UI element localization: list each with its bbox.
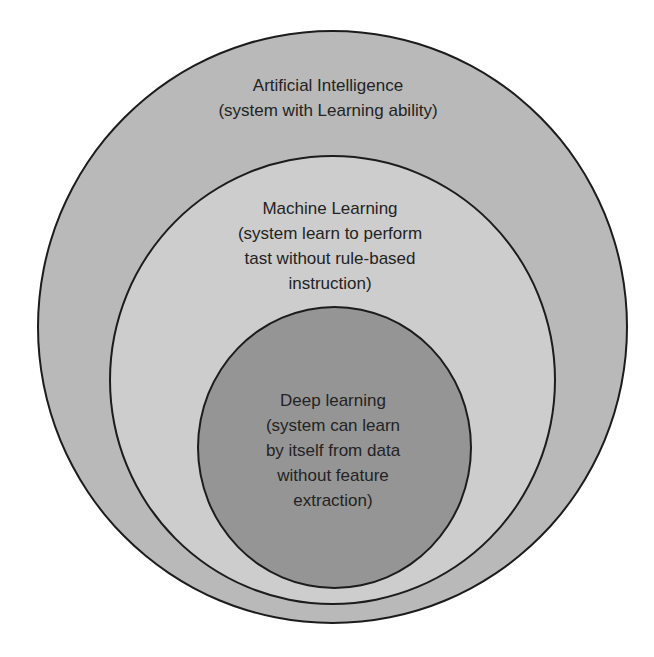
label-deep-learning: Deep learning (system can learn by itsel… <box>266 388 400 513</box>
dl-description-line: by itself from data <box>266 438 400 463</box>
ai-title: Artificial Intelligence <box>218 73 437 98</box>
ml-title: Machine Learning <box>238 196 422 221</box>
ml-description-line: tast without rule-based <box>238 246 422 271</box>
ml-description-line: instruction) <box>238 271 422 296</box>
nested-circle-diagram: Artificial Intelligence (system with Lea… <box>0 0 654 657</box>
dl-description-line: (system can learn <box>266 413 400 438</box>
dl-title: Deep learning <box>266 388 400 413</box>
ml-description-line: (system learn to perform <box>238 221 422 246</box>
ai-description-line: (system with Learning ability) <box>218 98 437 123</box>
label-artificial-intelligence: Artificial Intelligence (system with Lea… <box>218 73 437 123</box>
dl-description-line: extraction) <box>266 488 400 513</box>
label-machine-learning: Machine Learning (system learn to perfor… <box>238 196 422 296</box>
dl-description-line: without feature <box>266 463 400 488</box>
